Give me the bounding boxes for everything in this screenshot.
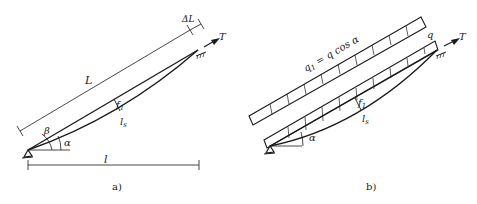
cable-sag-diagram: L ΔL T f1 ls l β α a) xyxy=(0,0,477,204)
label-T: T xyxy=(219,31,227,42)
figure-a: L ΔL T f1 ls l β α a) xyxy=(17,14,227,192)
label-beta: β xyxy=(43,125,50,136)
tension-arrow-icon-b xyxy=(444,38,460,46)
label-alpha: α xyxy=(64,137,71,148)
label-delta-L: ΔL xyxy=(181,14,194,24)
label-T-b: T xyxy=(459,31,467,42)
label-ls: ls xyxy=(120,116,127,129)
pin-support-icon xyxy=(22,150,33,158)
figure-b: q1 = q cos α q T f1 ls α b) xyxy=(249,17,467,192)
anchor-icon-b xyxy=(436,52,446,59)
label-q: q xyxy=(427,29,433,40)
label-f: f1 xyxy=(115,99,124,112)
anchor-icon xyxy=(196,52,206,59)
caption-a: a) xyxy=(112,181,122,192)
label-f-b: f1 xyxy=(357,97,366,110)
dimension-L xyxy=(17,19,204,136)
chord-line-b xyxy=(270,50,437,146)
label-alpha-b: α xyxy=(309,132,316,143)
angle-alpha-arc-b xyxy=(301,132,303,146)
dimension-span xyxy=(28,160,199,170)
pin-support-icon-b xyxy=(264,146,275,154)
label-span: l xyxy=(104,153,108,166)
caption-b: b) xyxy=(366,181,376,192)
label-L: L xyxy=(84,74,92,87)
label-ls-b: ls xyxy=(362,113,369,126)
chord-line xyxy=(28,50,198,150)
tension-arrow-icon xyxy=(204,38,220,47)
